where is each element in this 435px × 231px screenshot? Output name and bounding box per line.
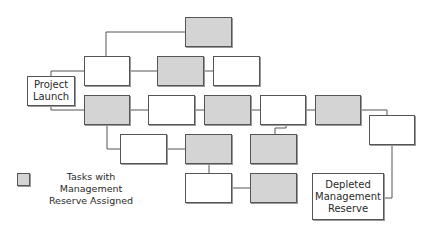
legend-label: Tasks with Management Reserve Assigned <box>36 171 146 207</box>
task-node-reserve <box>250 134 297 164</box>
connector-t5-t11 <box>107 125 120 149</box>
task-node-reserve <box>250 173 297 203</box>
task-node-reserve <box>185 17 232 47</box>
task-node-reserve <box>84 95 130 125</box>
legend-swatch-reserve <box>17 173 30 186</box>
task-node <box>260 95 306 125</box>
task-node <box>84 56 130 86</box>
connector-launch-t5 <box>51 106 84 110</box>
task-node-reserve <box>185 134 232 164</box>
task-node <box>213 56 260 86</box>
depleted-reserve-node: Depleted Management Reserve <box>312 173 384 220</box>
project-launch-node: Project Launch <box>27 76 75 106</box>
task-node <box>185 173 232 203</box>
task-node <box>120 134 167 164</box>
connector-t8-t13 <box>275 125 286 134</box>
node-label: Depleted Management Reserve <box>315 179 381 215</box>
network-diagram: Project LaunchDepleted Management Reserv… <box>0 0 435 231</box>
task-node-reserve <box>315 95 361 125</box>
task-node-reserve <box>204 95 251 125</box>
task-node <box>148 95 195 125</box>
connector-t10-depleted <box>384 145 392 198</box>
connector-t2-t1 <box>106 32 185 56</box>
node-label: Project Launch <box>33 79 69 103</box>
task-node <box>369 115 415 145</box>
task-node-reserve <box>157 56 204 86</box>
